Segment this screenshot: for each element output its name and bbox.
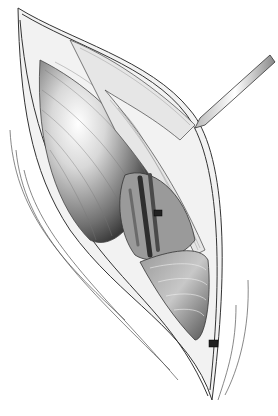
surgical-instrument-icon <box>195 55 275 128</box>
surgical-illustration <box>0 0 278 416</box>
suture-clip-lower <box>209 340 218 347</box>
suture-clip-upper <box>154 210 162 216</box>
